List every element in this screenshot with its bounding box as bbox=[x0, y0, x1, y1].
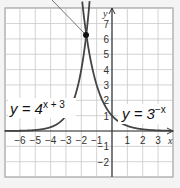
svg-text:−6: −6 bbox=[14, 135, 26, 146]
svg-text:−3: −3 bbox=[60, 135, 72, 146]
svg-text:x: x bbox=[167, 135, 173, 146]
svg-text:6: 6 bbox=[103, 34, 109, 45]
svg-text:1: 1 bbox=[125, 135, 131, 146]
svg-text:−1: −1 bbox=[98, 141, 110, 152]
intersection-point bbox=[83, 32, 89, 38]
svg-text:−5: −5 bbox=[30, 135, 42, 146]
svg-text:y: y bbox=[102, 8, 108, 19]
svg-text:−2: −2 bbox=[76, 135, 88, 146]
svg-text:7: 7 bbox=[103, 19, 109, 30]
svg-text:3: 3 bbox=[103, 80, 109, 91]
plot-area bbox=[5, 8, 173, 177]
svg-text:2: 2 bbox=[140, 135, 146, 146]
svg-text:−4: −4 bbox=[45, 135, 57, 146]
svg-text:−2: −2 bbox=[98, 157, 110, 168]
svg-text:4: 4 bbox=[103, 65, 109, 76]
exponential-graph: −6−5−4−3−2−1123−2−11234567yx y = 4x + 3 … bbox=[0, 0, 180, 188]
svg-text:5: 5 bbox=[103, 49, 109, 60]
svg-text:3: 3 bbox=[155, 135, 161, 146]
